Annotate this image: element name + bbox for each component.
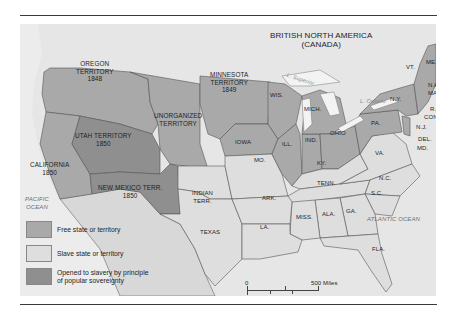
- label-iowa: IOWA: [235, 139, 251, 147]
- label-mass: MASS.: [428, 90, 436, 98]
- label-wis: WIS.: [270, 92, 283, 100]
- scale-miles-label: 500 Miles: [311, 280, 338, 288]
- label-ri: R.I.: [430, 106, 436, 114]
- scale-bar: 0 500 Miles 0 500 Kilometers: [245, 280, 345, 296]
- label-new-mexico-territory: NEW MEXICO TERR. 1850: [98, 184, 162, 199]
- legend-swatch-popular-sovereignty: [26, 268, 52, 285]
- legend-free: Free state or territory: [26, 221, 120, 238]
- label-lake-ontario: L. Ontario: [360, 98, 386, 106]
- scale-line: [247, 290, 319, 291]
- label-utah-territory: UTAH TERRITORY 1850: [75, 132, 132, 147]
- label-tenn: TENN.: [317, 180, 336, 188]
- label-california: CALIFORNIA 1850: [30, 161, 69, 176]
- bottom-rule: [20, 304, 437, 305]
- legend-popular-sovereignty: Opened to slavery by principle of popula…: [26, 268, 148, 285]
- label-mo: MO.: [254, 157, 266, 165]
- scale-tick: [285, 286, 286, 290]
- map: BRITISH NORTH AMERICA (CANADA) OREGON TE…: [20, 24, 436, 296]
- label-atlantic-ocean: ATLANTIC OCEAN: [367, 216, 420, 224]
- label-ky: KY.: [317, 160, 326, 168]
- label-ill: ILL.: [282, 141, 292, 149]
- label-va: VA.: [375, 150, 385, 158]
- label-pa: PA.: [371, 120, 381, 128]
- legend-swatch-slave: [26, 245, 52, 262]
- label-ark: ARK.: [262, 195, 276, 203]
- label-texas: TEXAS: [200, 229, 220, 237]
- label-ind: IND.: [305, 137, 317, 145]
- label-md: MD.: [417, 145, 428, 153]
- label-pacific-ocean: PACIFIC OCEAN: [25, 196, 49, 211]
- label-ny: N.Y.: [390, 96, 401, 104]
- label-la: LA.: [260, 224, 269, 232]
- label-nj: N.J.: [416, 124, 427, 132]
- legend-slave: Slave state or territory: [26, 245, 123, 262]
- scale-tick: [270, 290, 271, 294]
- label-ala: ALA.: [322, 211, 335, 219]
- label-me: ME.: [426, 59, 436, 67]
- label-ohio: OHIO: [330, 130, 346, 138]
- label-miss: MISS.: [296, 214, 313, 222]
- scale-tick: [247, 286, 248, 295]
- label-minnesota-territory: MINNESOTA TERRITORY 1849: [210, 71, 248, 94]
- top-rule: [20, 15, 437, 16]
- label-ga: GA.: [346, 208, 357, 216]
- label-unorganized-territory: UNORGANIZED TERRITORY: [154, 112, 202, 127]
- label-oregon-territory: OREGON TERRITORY 1848: [76, 60, 114, 83]
- label-vt: VT.: [406, 64, 415, 72]
- scale-tick: [292, 290, 293, 294]
- label-canada: BRITISH NORTH AMERICA (CANADA): [270, 31, 372, 49]
- label-del: DEL.: [418, 136, 432, 144]
- label-indian-territory: INDIAN TERR.: [192, 190, 213, 205]
- scale-tick: [318, 286, 319, 290]
- label-nc: N.C.: [379, 175, 391, 183]
- label-fla: FLA.: [372, 246, 385, 254]
- label-sc: S.C.: [371, 190, 383, 198]
- label-nh: N.H.: [428, 82, 436, 90]
- label-mich: MICH.: [304, 106, 322, 114]
- legend-swatch-free: [26, 221, 52, 238]
- label-conn: CONN.: [424, 114, 436, 122]
